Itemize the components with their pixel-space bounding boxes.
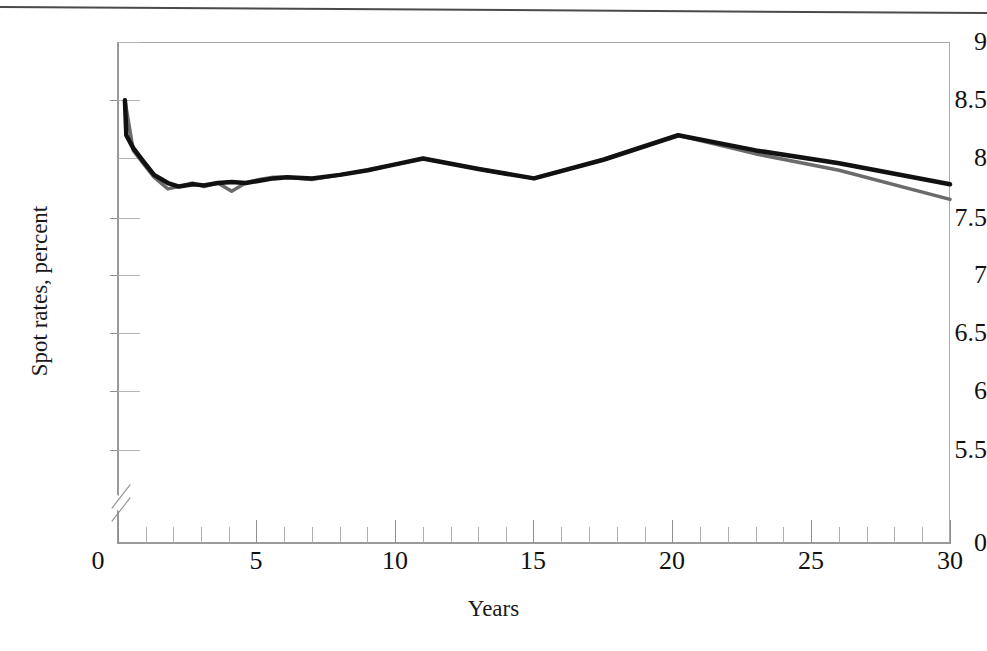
x-tick-0 <box>118 520 119 543</box>
y-tick-label-9: 9 <box>887 29 987 55</box>
y-tick-label-7: 7 <box>887 262 987 288</box>
x-tick-label-0: 0 <box>58 548 138 574</box>
x-minor-tick <box>201 527 202 543</box>
plot-area-frame <box>118 42 950 543</box>
y-tick-7-5-inner <box>118 218 140 219</box>
x-minor-tick <box>922 527 923 543</box>
y-axis-break-icon <box>104 482 138 524</box>
x-tick-25 <box>811 520 812 543</box>
y-tick-label-5-5: 5.5 <box>887 437 987 463</box>
y-tick-label-8-5: 8.5 <box>887 87 987 113</box>
x-minor-tick <box>340 527 341 543</box>
x-minor-tick <box>284 527 285 543</box>
x-minor-tick <box>173 527 174 543</box>
x-minor-tick <box>146 527 147 543</box>
x-minor-tick <box>312 527 313 543</box>
spot-rates-line-chart: 9 8.5 8 7.5 7 6.5 6 5.5 0 0 <box>0 0 987 651</box>
x-tick-label-5: 5 <box>216 548 296 574</box>
x-minor-tick <box>756 527 757 543</box>
x-axis-title: Years <box>0 596 987 622</box>
x-minor-tick <box>229 527 230 543</box>
x-minor-tick <box>700 527 701 543</box>
x-tick-label-30: 30 <box>910 548 987 574</box>
y-tick-8-5-inner <box>118 100 140 101</box>
x-tick-5 <box>256 520 257 543</box>
x-minor-tick <box>561 527 562 543</box>
y-tick-9 <box>118 42 140 43</box>
y-tick-label-6-5: 6.5 <box>887 320 987 346</box>
x-minor-tick <box>645 527 646 543</box>
x-tick-label-10: 10 <box>355 548 435 574</box>
x-minor-tick <box>589 527 590 543</box>
x-tick-10 <box>395 520 396 543</box>
x-tick-label-25: 25 <box>771 548 851 574</box>
y-tick-5-5-inner <box>118 450 140 451</box>
y-tick-label-7-5: 7.5 <box>887 205 987 231</box>
x-minor-tick <box>451 527 452 543</box>
x-minor-tick <box>617 527 618 543</box>
y-tick-6-5-inner <box>118 333 140 334</box>
x-minor-tick <box>894 527 895 543</box>
x-minor-tick <box>478 527 479 543</box>
y-tick-label-6: 6 <box>887 378 987 404</box>
x-axis-line <box>117 542 951 544</box>
y-tick-8 <box>118 158 140 159</box>
x-tick-30 <box>950 520 951 543</box>
x-minor-tick <box>783 527 784 543</box>
x-minor-tick <box>367 527 368 543</box>
x-minor-tick <box>506 527 507 543</box>
x-tick-label-20: 20 <box>632 548 712 574</box>
x-minor-tick <box>423 527 424 543</box>
y-tick-label-8: 8 <box>887 145 987 171</box>
x-minor-tick <box>728 527 729 543</box>
y-tick-7-inner <box>118 275 140 276</box>
x-tick-15 <box>533 520 534 543</box>
x-tick-20 <box>672 520 673 543</box>
y-tick-6-inner <box>118 391 140 392</box>
y-axis-line <box>117 42 119 544</box>
x-minor-tick <box>839 527 840 543</box>
x-tick-label-15: 15 <box>493 548 573 574</box>
x-minor-tick <box>867 527 868 543</box>
y-axis-title: Spot rates, percent <box>27 161 53 421</box>
